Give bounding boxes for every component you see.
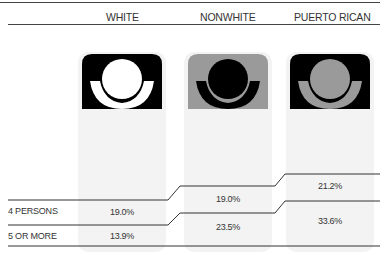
row-label-5-or-more: 5 OR MORE xyxy=(8,231,57,241)
value-puerto-rican-5-or-more: 33.6% xyxy=(300,216,360,226)
value-nonwhite-5-or-more: 23.5% xyxy=(198,222,258,232)
value-puerto-rican-4-persons: 21.2% xyxy=(300,181,360,191)
value-white-4-persons: 19.0% xyxy=(92,207,152,217)
row-label-4-persons: 4 PERSONS xyxy=(8,206,58,216)
value-white-5-or-more: 13.9% xyxy=(92,231,152,241)
value-nonwhite-4-persons: 19.0% xyxy=(198,194,258,204)
